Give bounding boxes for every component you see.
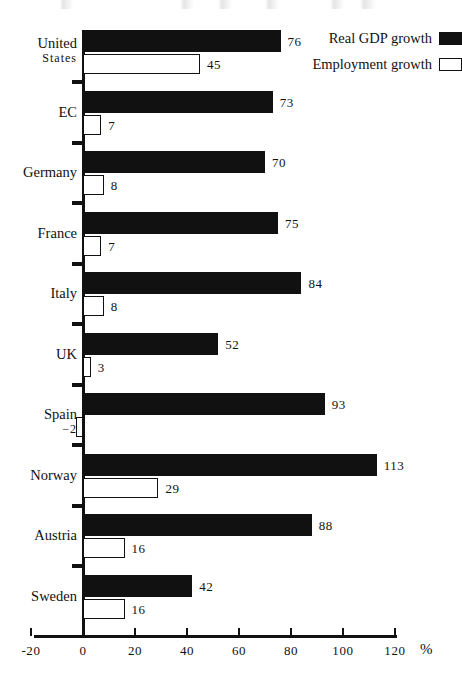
x-tick-label: 120 — [384, 643, 405, 659]
bar-value-employment: 7 — [108, 240, 115, 253]
bar-value-employment: 16 — [132, 542, 146, 555]
bar-employment-growth — [83, 115, 101, 135]
group-separator-tick — [72, 262, 83, 266]
category-label-line: UK — [56, 347, 77, 362]
bar-value-gdp: 73 — [280, 96, 294, 109]
bar-value-gdp: 75 — [285, 217, 299, 230]
category-label-line: Germany — [23, 165, 77, 180]
legend-swatch-hollow-icon — [439, 58, 462, 71]
x-tick-label: -20 — [21, 643, 40, 659]
x-tick-mark — [30, 628, 32, 636]
category-label: Norway — [30, 468, 77, 483]
category-label-line: United — [38, 36, 77, 51]
group-separator-tick — [72, 443, 83, 447]
bar-real-gdp-growth — [83, 454, 377, 476]
bar-value-employment: 29 — [165, 482, 179, 495]
bar-value-gdp: 52 — [225, 338, 239, 351]
group-separator-tick — [72, 383, 83, 387]
group-separator-tick — [72, 504, 83, 508]
x-tick-mark — [290, 628, 292, 636]
chart-legend: Real GDP growth Employment growth — [312, 30, 462, 82]
x-tick-mark — [82, 628, 84, 636]
bar-value-gdp: 70 — [272, 156, 286, 169]
legend-swatch-filled-icon — [439, 32, 462, 45]
bar-employment-growth — [83, 357, 91, 377]
group-separator-tick — [72, 322, 83, 326]
x-tick-mark — [238, 628, 240, 636]
bar-real-gdp-growth — [83, 30, 281, 52]
category-label: UnitedStates — [38, 36, 77, 66]
legend-label-real-gdp-growth: Real GDP growth — [329, 30, 432, 47]
category-label-line: Sweden — [31, 589, 77, 604]
bar-real-gdp-growth — [83, 575, 192, 597]
category-label: Spain−2 — [44, 407, 77, 437]
category-label: Sweden — [31, 589, 77, 604]
category-label-line: Spain — [44, 407, 77, 422]
bar-value-gdp: 76 — [288, 35, 302, 48]
x-tick-label: 20 — [128, 643, 142, 659]
bar-real-gdp-growth — [83, 212, 278, 234]
bar-value-employment: 45 — [207, 58, 221, 71]
bar-real-gdp-growth — [83, 514, 312, 536]
bar-value-employment: 16 — [132, 603, 146, 616]
category-label-line: States — [38, 51, 77, 66]
category-label-line: Norway — [30, 468, 77, 483]
x-tick-mark — [342, 628, 344, 636]
group-separator-tick — [72, 80, 83, 84]
bar-value-employment: 3 — [98, 361, 105, 374]
x-tick-mark — [134, 628, 136, 636]
bar-employment-growth — [83, 296, 104, 316]
category-label: Germany — [23, 165, 77, 180]
bar-real-gdp-growth — [83, 151, 265, 173]
bar-value-gdp: 42 — [199, 580, 213, 593]
category-label: France — [38, 226, 77, 241]
x-axis-unit-label: % — [420, 641, 433, 658]
bar-employment-growth — [83, 236, 101, 256]
bar-value-employment: −2 — [44, 422, 77, 437]
bar-real-gdp-growth — [83, 333, 218, 355]
bar-value-employment: 8 — [111, 300, 118, 313]
bar-employment-growth — [83, 599, 125, 619]
bar-employment-growth — [76, 417, 83, 437]
x-tick-label: 40 — [180, 643, 194, 659]
category-label: Italy — [50, 286, 77, 301]
category-label: EC — [58, 105, 77, 120]
bar-value-employment: 8 — [111, 179, 118, 192]
bar-real-gdp-growth — [83, 272, 301, 294]
x-tick-label: 0 — [79, 643, 86, 659]
bar-employment-growth — [83, 538, 125, 558]
legend-item-employment-growth: Employment growth — [312, 56, 462, 73]
bar-value-gdp: 113 — [384, 459, 405, 472]
category-label-line: Italy — [50, 286, 77, 301]
category-label-line: Austria — [34, 528, 77, 543]
x-tick-label: 80 — [284, 643, 298, 659]
bar-real-gdp-growth — [83, 393, 325, 415]
x-tick-label: 100 — [332, 643, 353, 659]
bar-value-gdp: 93 — [332, 398, 346, 411]
category-label: UK — [56, 347, 77, 362]
legend-label-employment-growth: Employment growth — [312, 56, 432, 73]
bar-employment-growth — [83, 478, 158, 498]
bar-employment-growth — [83, 54, 200, 74]
category-label-line: EC — [58, 105, 77, 120]
group-separator-tick — [72, 564, 83, 568]
group-separator-tick — [72, 141, 83, 145]
legend-item-real-gdp-growth: Real GDP growth — [312, 30, 462, 47]
x-tick-mark — [394, 628, 396, 636]
x-tick-label: 60 — [232, 643, 246, 659]
bar-value-gdp: 84 — [308, 277, 322, 290]
bar-employment-growth — [83, 175, 104, 195]
bar-value-gdp: 88 — [319, 519, 333, 532]
x-tick-mark — [186, 628, 188, 636]
group-separator-tick — [72, 201, 83, 205]
bar-real-gdp-growth — [83, 91, 273, 113]
category-label-line: France — [38, 226, 77, 241]
category-label: Austria — [34, 528, 77, 543]
bar-value-employment: 7 — [108, 119, 115, 132]
